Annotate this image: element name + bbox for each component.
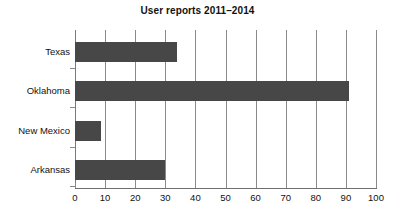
y-axis-tick: [70, 147, 75, 148]
y-axis-label: Texas: [45, 46, 70, 57]
x-axis-tick-40: [195, 183, 196, 188]
bar: [75, 42, 177, 62]
gridline-90: [346, 30, 347, 188]
gridline-50: [226, 30, 227, 188]
bar: [75, 121, 101, 141]
x-axis-tick-30: [165, 183, 166, 188]
gridline-70: [286, 30, 287, 188]
x-axis-tick-70: [286, 183, 287, 188]
x-axis-tick-10: [105, 183, 106, 188]
gridline-100: [376, 30, 377, 188]
gridline-60: [256, 30, 257, 188]
y-axis-label: Oklahoma: [27, 85, 70, 96]
bar: [75, 160, 165, 180]
bar-chart: User reports 2011–2014 TexasOklahomaNew …: [0, 0, 395, 221]
plot-area: [75, 30, 376, 188]
x-axis-tick-90: [346, 183, 347, 188]
x-axis-tick-20: [135, 183, 136, 188]
y-axis-tick: [70, 107, 75, 108]
y-axis-tick: [70, 68, 75, 69]
x-axis-tick-60: [256, 183, 257, 188]
x-axis-tick-0: [75, 183, 76, 188]
gridline-40: [195, 30, 196, 188]
y-axis-label: Arkansas: [30, 164, 70, 175]
x-axis-label: 100: [356, 192, 395, 203]
x-axis-tick-50: [226, 183, 227, 188]
y-axis-label: New Mexico: [18, 125, 70, 136]
x-axis-tick-100: [376, 183, 377, 188]
bar: [75, 81, 349, 101]
chart-title: User reports 2011–2014: [0, 5, 395, 16]
x-axis-line: [75, 188, 377, 189]
gridline-80: [316, 30, 317, 188]
x-axis-tick-80: [316, 183, 317, 188]
